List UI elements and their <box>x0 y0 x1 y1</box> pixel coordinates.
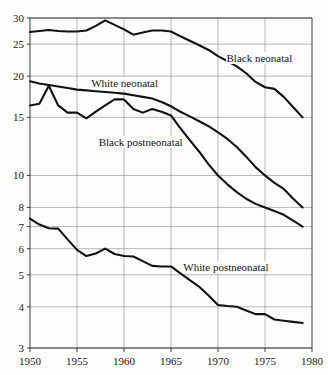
y-tick-label: 10 <box>0 170 24 181</box>
y-tick-label: 6 <box>0 243 24 254</box>
data-series-lines <box>30 20 303 323</box>
x-tick-label: 1960 <box>113 356 135 367</box>
series-line-2 <box>30 86 303 227</box>
x-tick-label: 1955 <box>66 356 88 367</box>
x-tick-label: 1980 <box>301 356 323 367</box>
y-tick-label: 8 <box>0 202 24 213</box>
y-tick-label: 4 <box>0 301 24 312</box>
y-tick-label: 20 <box>0 71 24 82</box>
y-tick-label: 25 <box>0 39 24 50</box>
series-label-black-postneonatal: Black postneonatal <box>98 136 184 148</box>
y-tick-label: 7 <box>0 221 24 232</box>
series-line-0 <box>30 20 303 117</box>
y-tick-label: 3 <box>0 343 24 354</box>
axis-ticks <box>27 18 312 352</box>
y-tick-label: 5 <box>0 269 24 280</box>
x-tick-label: 1950 <box>19 356 41 367</box>
series-label-white-neonatal: White neonatal <box>90 77 159 89</box>
series-label-black-neonatal: Black neonatal <box>226 52 294 64</box>
y-tick-label: 30 <box>0 13 24 24</box>
series-label-white-postneonatal: White postneonatal <box>182 261 269 273</box>
y-tick-label: 15 <box>0 112 24 123</box>
x-tick-label: 1975 <box>254 356 276 367</box>
infant-mortality-line-chart: 3025201510876543 19501955196019651970197… <box>0 0 328 375</box>
gridlines <box>30 18 312 348</box>
x-tick-label: 1970 <box>207 356 229 367</box>
x-tick-label: 1965 <box>160 356 182 367</box>
